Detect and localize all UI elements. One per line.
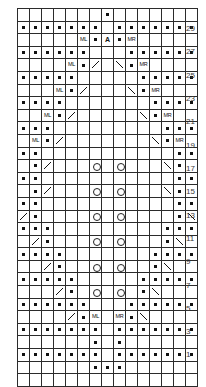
chart-cell[interactable] [126, 298, 138, 311]
chart-cell[interactable] [102, 298, 114, 311]
chart-cell[interactable] [174, 71, 186, 84]
chart-cell[interactable] [78, 223, 90, 236]
chart-cell[interactable] [54, 21, 66, 34]
chart-cell[interactable] [54, 59, 66, 72]
chart-cell[interactable] [66, 160, 78, 173]
chart-cell[interactable] [162, 349, 174, 362]
chart-cell[interactable] [66, 374, 78, 387]
chart-cell[interactable] [102, 59, 114, 72]
chart-cell[interactable] [90, 286, 102, 299]
chart-cell[interactable] [90, 46, 102, 59]
chart-cell[interactable] [186, 361, 198, 374]
chart-cell[interactable] [162, 71, 174, 84]
chart-cell[interactable] [162, 9, 174, 22]
chart-cell[interactable] [102, 197, 114, 210]
chart-cell[interactable] [78, 147, 90, 160]
chart-cell[interactable] [42, 349, 54, 362]
chart-cell[interactable] [162, 172, 174, 185]
chart-cell[interactable] [150, 197, 162, 210]
chart-cell[interactable] [54, 34, 66, 47]
chart-cell[interactable] [150, 260, 162, 273]
chart-cell[interactable] [54, 260, 66, 273]
chart-cell[interactable] [150, 336, 162, 349]
chart-cell[interactable] [126, 185, 138, 198]
chart-cell[interactable] [30, 71, 42, 84]
chart-cell[interactable] [138, 172, 150, 185]
chart-cell[interactable] [162, 323, 174, 336]
chart-cell[interactable] [114, 46, 126, 59]
chart-cell[interactable] [102, 134, 114, 147]
chart-cell[interactable] [18, 248, 30, 261]
chart-cell[interactable] [126, 9, 138, 22]
chart-cell[interactable] [54, 223, 66, 236]
chart-cell[interactable] [186, 172, 198, 185]
chart-cell[interactable] [18, 323, 30, 336]
chart-cell[interactable] [18, 336, 30, 349]
chart-cell[interactable] [18, 160, 30, 173]
chart-cell[interactable] [102, 210, 114, 223]
chart-cell[interactable] [18, 59, 30, 72]
chart-cell[interactable] [30, 286, 42, 299]
chart-cell[interactable] [66, 185, 78, 198]
chart-cell[interactable] [102, 286, 114, 299]
chart-cell[interactable] [18, 374, 30, 387]
chart-cell[interactable] [54, 109, 66, 122]
chart-cell[interactable] [114, 197, 126, 210]
chart-cell[interactable] [150, 374, 162, 387]
chart-cell[interactable] [102, 260, 114, 273]
chart-cell[interactable] [66, 311, 78, 324]
chart-cell[interactable] [78, 21, 90, 34]
chart-cell[interactable] [174, 374, 186, 387]
chart-cell[interactable] [150, 34, 162, 47]
chart-cell[interactable] [78, 160, 90, 173]
chart-cell[interactable] [54, 273, 66, 286]
chart-cell[interactable] [30, 172, 42, 185]
chart-cell[interactable] [102, 248, 114, 261]
chart-cell[interactable] [114, 185, 126, 198]
chart-cell[interactable] [30, 323, 42, 336]
chart-cell[interactable] [54, 323, 66, 336]
chart-cell[interactable] [78, 374, 90, 387]
chart-cell[interactable] [162, 84, 174, 97]
chart-cell[interactable] [174, 286, 186, 299]
chart-cell[interactable] [54, 286, 66, 299]
chart-cell[interactable] [162, 134, 174, 147]
chart-cell[interactable] [90, 361, 102, 374]
chart-cell[interactable] [162, 160, 174, 173]
chart-cell[interactable] [174, 9, 186, 22]
chart-cell[interactable] [30, 349, 42, 362]
chart-cell[interactable] [174, 46, 186, 59]
chart-cell[interactable] [18, 197, 30, 210]
chart-cell[interactable] [66, 97, 78, 110]
chart-cell[interactable] [42, 336, 54, 349]
chart-cell[interactable] [90, 185, 102, 198]
chart-cell[interactable] [42, 84, 54, 97]
chart-cell[interactable] [18, 286, 30, 299]
chart-cell[interactable] [30, 223, 42, 236]
chart-cell[interactable] [78, 172, 90, 185]
chart-cell[interactable] [78, 59, 90, 72]
chart-cell[interactable] [42, 59, 54, 72]
chart-cell[interactable] [30, 59, 42, 72]
chart-cell[interactable] [150, 172, 162, 185]
chart-cell[interactable] [114, 172, 126, 185]
chart-cell[interactable] [102, 160, 114, 173]
chart-cell[interactable] [186, 59, 198, 72]
chart-cell[interactable] [126, 273, 138, 286]
chart-cell[interactable] [114, 109, 126, 122]
chart-cell[interactable] [66, 109, 78, 122]
chart-cell[interactable] [78, 46, 90, 59]
chart-cell[interactable] [90, 109, 102, 122]
chart-cell[interactable] [102, 109, 114, 122]
chart-cell[interactable] [42, 185, 54, 198]
chart-cell[interactable] [66, 21, 78, 34]
chart-cell[interactable] [90, 298, 102, 311]
chart-cell[interactable] [138, 235, 150, 248]
chart-cell[interactable] [66, 46, 78, 59]
chart-cell[interactable] [162, 298, 174, 311]
chart-cell[interactable]: MR [162, 109, 174, 122]
chart-cell[interactable] [150, 46, 162, 59]
chart-cell[interactable] [138, 323, 150, 336]
chart-cell[interactable] [54, 172, 66, 185]
chart-cell[interactable] [138, 185, 150, 198]
